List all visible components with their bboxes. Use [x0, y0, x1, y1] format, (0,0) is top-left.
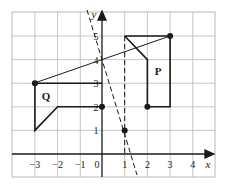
- point-marker: [32, 80, 38, 86]
- shape-p-label: P: [155, 65, 162, 77]
- x-axis-label: x: [205, 158, 211, 170]
- x-tick: −3: [30, 159, 41, 170]
- x-tick: 1: [122, 159, 127, 170]
- x-tick: 4: [190, 159, 195, 170]
- point-marker: [167, 33, 173, 39]
- x-tick: −2: [52, 159, 63, 170]
- coordinate-diagram: −3 −2 −1 0 1 2 3 4 1 2 3 4 5 x y P Q: [0, 0, 228, 189]
- y-tick: 4: [94, 55, 99, 66]
- y-tick: 5: [94, 31, 99, 42]
- x-tick: 3: [168, 159, 173, 170]
- point-marker: [99, 104, 105, 110]
- y-tick: 1: [94, 125, 99, 136]
- point-marker: [122, 127, 128, 133]
- y-axis-label: y: [91, 8, 97, 20]
- point-marker: [144, 104, 150, 110]
- shape-q-label: Q: [42, 90, 51, 102]
- x-tick: −1: [75, 159, 86, 170]
- x-tick: 0: [95, 159, 100, 170]
- x-tick: 2: [145, 159, 150, 170]
